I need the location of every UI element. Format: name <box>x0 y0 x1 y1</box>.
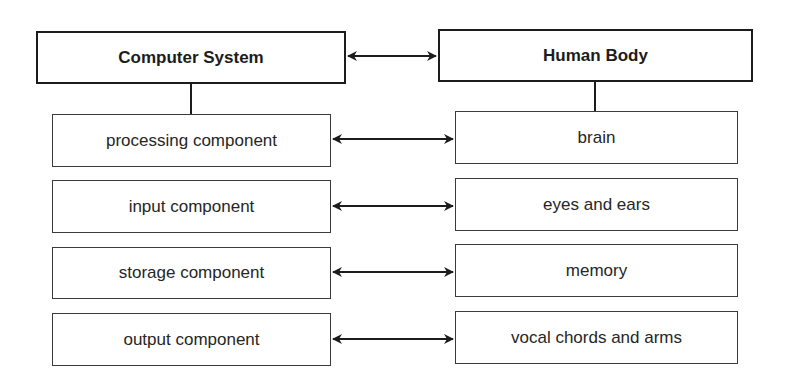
processing-component-box: processing component <box>52 114 331 167</box>
computer-system-header: Computer System <box>36 31 346 84</box>
brain-box: brain <box>455 111 738 164</box>
eyes-and-ears-box: eyes and ears <box>455 178 738 231</box>
storage-component-box: storage component <box>52 247 331 299</box>
human-body-header: Human Body <box>438 29 753 82</box>
output-component-box: output component <box>52 313 331 366</box>
vocal-chords-and-arms-box: vocal chords and arms <box>455 311 738 364</box>
memory-box: memory <box>455 244 738 297</box>
input-component-box: input component <box>52 180 331 233</box>
